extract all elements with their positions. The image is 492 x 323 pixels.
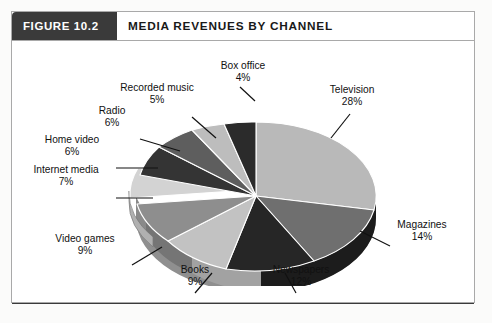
label-video-games-pct: 9%	[44, 245, 126, 257]
label-radio-pct: 6%	[88, 117, 136, 129]
figure-number-tag: FIGURE 10.2	[12, 12, 117, 40]
figure-title: MEDIA REVENUES BY CHANNEL	[128, 12, 333, 40]
label-video-games: Video games 9%	[44, 233, 126, 256]
label-home-video-name: Home video	[45, 134, 99, 145]
label-internet-media-name: Internet media	[33, 164, 98, 175]
label-radio: Radio 6%	[88, 105, 136, 128]
label-magazines-name: Magazines	[397, 219, 446, 230]
label-magazines-pct: 14%	[384, 231, 460, 243]
label-box-office: Box office 4%	[208, 60, 278, 83]
label-television-name: Television	[330, 84, 375, 95]
label-box-office-name: Box office	[221, 60, 266, 71]
leader-television	[331, 114, 350, 138]
figure-bottom-rule	[12, 303, 474, 304]
label-recorded-music-name: Recorded music	[120, 82, 194, 93]
leader-box-office	[240, 87, 255, 101]
label-home-video: Home video 6%	[32, 134, 112, 157]
label-television: Television 28%	[317, 84, 387, 107]
label-box-office-pct: 4%	[208, 72, 278, 84]
label-video-games-name: Video games	[55, 233, 114, 244]
figure-body: Box office 4% Television 28% Recorded mu…	[12, 41, 474, 304]
label-newspapers-pct: 12%	[260, 276, 342, 288]
label-recorded-music-pct: 5%	[109, 94, 205, 106]
label-internet-media-pct: 7%	[20, 176, 112, 188]
pie-slice-television	[256, 122, 376, 210]
label-radio-name: Radio	[99, 105, 126, 116]
label-recorded-music: Recorded music 5%	[109, 82, 205, 105]
label-books: Books 9%	[160, 264, 230, 287]
figure-card: FIGURE 10.2 MEDIA REVENUES BY CHANNEL	[11, 11, 475, 303]
label-television-pct: 28%	[317, 96, 387, 108]
label-books-pct: 9%	[160, 276, 230, 288]
label-magazines: Magazines 14%	[384, 219, 460, 242]
label-internet-media: Internet media 7%	[20, 164, 112, 187]
figure-header: FIGURE 10.2 MEDIA REVENUES BY CHANNEL	[12, 12, 474, 41]
label-home-video-pct: 6%	[32, 146, 112, 158]
label-newspapers-name: Newspapers	[273, 264, 330, 275]
label-newspapers: Newspapers 12%	[260, 264, 342, 287]
label-books-name: Books	[181, 264, 209, 275]
